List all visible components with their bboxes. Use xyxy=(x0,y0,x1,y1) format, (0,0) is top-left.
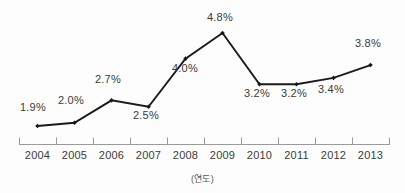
data-label-2004: 1.9% xyxy=(20,102,46,113)
data-point-2004 xyxy=(35,124,40,129)
data-point-2011 xyxy=(294,82,299,87)
xtick-label-2006: 2006 xyxy=(93,150,130,161)
xtick-label-2007: 2007 xyxy=(130,150,167,161)
data-label-2007: 2.5% xyxy=(133,110,159,121)
data-label-2012: 3.4% xyxy=(318,84,344,95)
data-label-2013: 3.8% xyxy=(355,38,381,49)
data-label-2009: 4.8% xyxy=(207,12,233,23)
data-label-2006: 2.7% xyxy=(95,74,121,85)
line-chart: 1.9% 2.0% 2.7% 2.5% 4.0% 4.8% 3.2% 3.2% … xyxy=(0,0,405,193)
xtick-label-2005: 2005 xyxy=(56,150,93,161)
data-label-2011: 3.2% xyxy=(281,88,307,99)
data-label-2008: 4.0% xyxy=(172,63,198,74)
data-point-2013 xyxy=(368,63,373,68)
xtick-label-2004: 2004 xyxy=(19,150,56,161)
data-point-2012 xyxy=(331,76,336,81)
series-line xyxy=(38,33,371,126)
x-axis-title: (연도) xyxy=(0,172,405,185)
data-label-2010: 3.2% xyxy=(244,88,270,99)
xtick-label-2009: 2009 xyxy=(204,150,241,161)
xtick-label-2012: 2012 xyxy=(315,150,352,161)
xtick-label-2013: 2013 xyxy=(352,150,389,161)
x-axis-ticks xyxy=(20,138,390,145)
xtick-label-2011: 2011 xyxy=(278,150,315,161)
data-label-2005: 2.0% xyxy=(58,95,84,106)
xtick-label-2008: 2008 xyxy=(167,150,204,161)
xtick-label-2010: 2010 xyxy=(241,150,278,161)
